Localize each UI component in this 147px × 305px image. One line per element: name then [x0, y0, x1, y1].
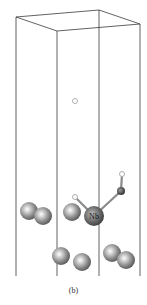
- unit-cell: [16, 10, 140, 276]
- figure-caption: (b): [0, 286, 147, 295]
- substrate-atom: [117, 251, 135, 269]
- crystal-structure-figure: Nb: [0, 0, 147, 305]
- hydrogen-atom: [73, 195, 78, 200]
- hydrogen-atom: [73, 99, 78, 104]
- substrate-atom: [63, 203, 81, 221]
- substrate-atom: [52, 247, 70, 265]
- atoms: Nb: [20, 99, 135, 272]
- cell-top-face: [16, 10, 140, 31]
- substrate-atom: [34, 207, 52, 225]
- oxygen-atom: [117, 187, 125, 195]
- nb-label: Nb: [89, 212, 99, 221]
- substrate-atom: [73, 253, 91, 271]
- hydrogen-atom: [120, 172, 125, 177]
